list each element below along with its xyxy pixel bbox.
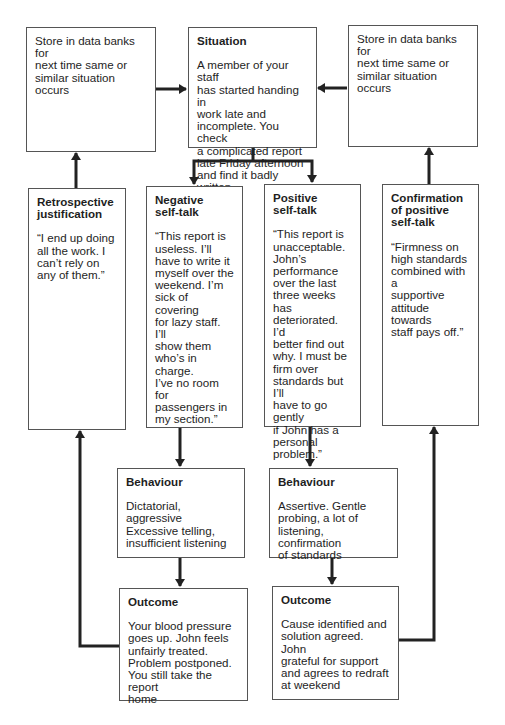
outcome-positive-box: Outcome Cause identified and solution ag…	[272, 586, 399, 700]
retrospective-title: Retrospective justification	[37, 196, 117, 220]
arrow-outcome-to-retrospective	[80, 431, 119, 646]
behaviour-positive-text: Assertive. Gentle probing, a lot of list…	[278, 500, 389, 561]
store-data-banks-right-box: Store in data banks for next time same o…	[348, 25, 478, 147]
negative-self-talk-box: Negative self-talk “This report is usele…	[146, 186, 243, 428]
outcome-negative-box: Outcome Your blood pressure goes up. Joh…	[119, 588, 248, 701]
confirmation-title: Confirmation of positive self-talk	[391, 192, 470, 229]
confirmation-text: “Firmness on high standards combined wit…	[391, 241, 470, 339]
store-right-text: Store in data banks for next time same o…	[357, 33, 469, 94]
store-data-banks-left-box: Store in data banks for next time same o…	[26, 27, 156, 152]
behaviour-positive-title: Behaviour	[278, 476, 389, 488]
arrow-outcome-to-confirmation	[399, 427, 434, 640]
positive-title: Positive self-talk	[273, 192, 352, 216]
situation-box: Situation A member of your staff has sta…	[188, 27, 317, 148]
outcome-positive-title: Outcome	[281, 594, 390, 606]
positive-self-talk-box: Positive self-talk “This report is unacc…	[264, 184, 361, 427]
situation-title: Situation	[197, 35, 308, 47]
outcome-negative-title: Outcome	[128, 596, 239, 608]
confirmation-positive-self-talk-box: Confirmation of positive self-talk “Firm…	[382, 184, 479, 426]
behaviour-negative-box: Behaviour Dictatorial, aggressive Excess…	[117, 468, 245, 558]
outcome-negative-text: Your blood pressure goes up. John feels …	[128, 620, 239, 705]
negative-text: “This report is useless. I’ll have to wr…	[155, 230, 234, 425]
positive-text: “This report is unacceptable. John’s per…	[273, 228, 352, 460]
negative-title: Negative self-talk	[155, 194, 234, 218]
behaviour-negative-text: Dictatorial, aggressive Excessive tellin…	[126, 500, 236, 549]
behaviour-negative-title: Behaviour	[126, 476, 236, 488]
retrospective-justification-box: Retrospective justification “I end up do…	[28, 188, 126, 430]
behaviour-positive-box: Behaviour Assertive. Gentle probing, a l…	[269, 468, 398, 558]
outcome-positive-text: Cause identified and solution agreed. Jo…	[281, 618, 390, 691]
situation-text: A member of your staff has started handi…	[197, 59, 308, 193]
store-left-text: Store in data banks for next time same o…	[35, 35, 147, 96]
retrospective-text: “I end up doing all the work. I can’t re…	[37, 232, 117, 281]
